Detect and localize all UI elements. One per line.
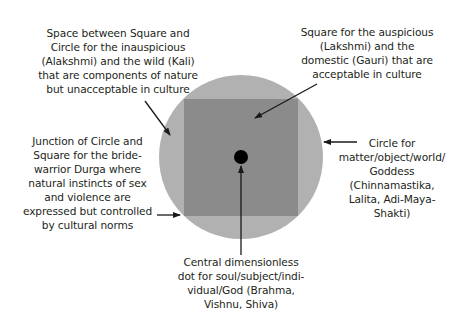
label-square: Square for the auspicious (Lakshmi) and … [297, 25, 437, 81]
arrow-space-between [145, 101, 170, 135]
label-space-between: Space between Square and Circle for the … [18, 26, 218, 96]
label-circle: Circle for matter/object/world/ Goddess … [328, 136, 456, 220]
label-junction: Junction of Circle and Square for the br… [15, 134, 160, 232]
central-dot [234, 150, 248, 164]
label-dot: Central dimensionless dot for soul/subje… [166, 255, 316, 311]
